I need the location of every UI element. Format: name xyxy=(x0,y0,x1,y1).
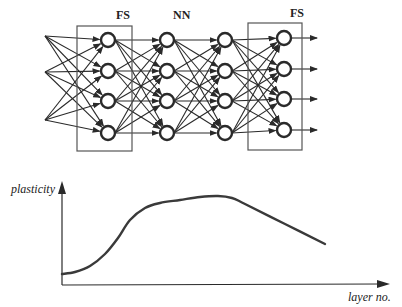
neuron-node xyxy=(218,33,232,47)
neuron-node xyxy=(218,64,232,78)
y-axis-arrow-icon xyxy=(58,181,66,194)
connection-arrow xyxy=(45,36,102,95)
connection-arrow xyxy=(45,36,100,39)
connection-arrow xyxy=(174,40,218,67)
fs-right-label: FS xyxy=(290,6,304,21)
neuron-node xyxy=(277,31,291,45)
y-axis-label: plasticity xyxy=(11,182,55,197)
nn-label: NN xyxy=(173,8,190,23)
neuron-node xyxy=(101,94,115,108)
neuron-node xyxy=(277,123,291,137)
fs-left-label: FS xyxy=(116,8,130,23)
connection-arrow xyxy=(115,40,160,67)
neuron-node xyxy=(160,64,174,78)
connection-arrow xyxy=(232,104,277,133)
neuron-node xyxy=(101,33,115,47)
neuron-node xyxy=(160,126,174,140)
neuron-node xyxy=(160,94,174,108)
connection-arrows xyxy=(45,36,317,133)
connection-arrow xyxy=(232,45,280,133)
plasticity-curve xyxy=(62,196,325,274)
connection-arrow xyxy=(174,47,220,101)
neuron-node xyxy=(101,126,115,140)
neuron-node xyxy=(160,33,174,47)
x-axis-label: layer no. xyxy=(348,290,391,305)
x-axis xyxy=(62,284,380,285)
neuron-node xyxy=(218,94,232,108)
neuron-node xyxy=(218,126,232,140)
connection-arrow xyxy=(115,105,160,133)
connection-arrow xyxy=(45,76,101,120)
connection-arrow xyxy=(232,38,276,40)
neuron-node xyxy=(277,92,291,106)
connection-arrow xyxy=(232,69,276,71)
connection-arrow xyxy=(115,46,161,101)
connection-arrow xyxy=(45,71,100,72)
connection-arrow xyxy=(232,99,276,101)
connection-arrow xyxy=(45,36,101,67)
connection-arrow xyxy=(45,120,100,131)
connection-arrow xyxy=(232,130,276,133)
neuron-node xyxy=(277,62,291,76)
neuron-node xyxy=(101,64,115,78)
neural-network-diagram xyxy=(0,0,402,160)
connection-arrow xyxy=(174,106,218,133)
figure: FS NN FS plasticity layer no. xyxy=(0,0,402,307)
x-axis-arrow-icon xyxy=(377,280,390,288)
